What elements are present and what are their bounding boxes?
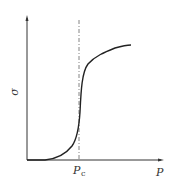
threshold-label: P: [72, 164, 81, 177]
threshold-subscript: c: [81, 169, 86, 178]
percolation-diagram: σ P P c: [0, 0, 176, 190]
x-axis-arrow-icon: [158, 159, 164, 162]
y-axis-label: σ: [8, 88, 21, 96]
y-axis-arrow-icon: [26, 15, 29, 21]
x-axis-label: P: [155, 166, 164, 179]
